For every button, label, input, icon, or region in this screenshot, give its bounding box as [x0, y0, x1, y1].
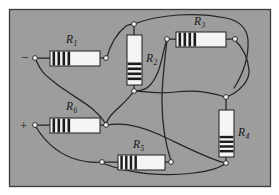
node-r6-right	[104, 123, 109, 128]
resistor-band	[58, 119, 61, 133]
resistor-band	[68, 52, 71, 66]
resistor-band	[53, 119, 56, 133]
resistor-band	[179, 33, 182, 47]
node-positive-terminal	[33, 123, 38, 128]
resistor-r1	[50, 51, 100, 66]
resistor-band	[53, 52, 56, 66]
resistor-band	[63, 52, 66, 66]
resistor-band	[220, 145, 234, 147]
node-r5-left	[100, 160, 105, 165]
resistor-label-subscript: 2	[154, 58, 158, 67]
resistor-band	[189, 33, 192, 47]
resistor-label-subscript: 6	[74, 106, 78, 115]
circuit-figure: R1R2R3R4R5R6 −+	[0, 0, 279, 195]
resistor-band	[130, 156, 132, 170]
circuit-schematic-svg: R1R2R3R4R5R6 −+	[0, 0, 279, 195]
resistor-band	[128, 78, 142, 81]
node-r4-top	[224, 95, 229, 100]
resistor-r5	[118, 155, 165, 170]
node-r2-bottom	[132, 89, 137, 94]
resistor-label-subscript: 1	[74, 39, 78, 48]
resistor-label-subscript: 3	[201, 21, 206, 30]
resistor-band	[184, 33, 187, 47]
node-r1-right	[104, 56, 109, 61]
resistor-label-subscript: 5	[141, 144, 145, 153]
resistor-band	[68, 119, 71, 133]
node-r3-right	[233, 37, 238, 42]
resistor-r2	[127, 35, 142, 85]
node-r4-bottom	[224, 161, 229, 166]
positive-terminal-sign: +	[20, 118, 27, 133]
resistor-band	[128, 68, 142, 71]
resistor-band	[63, 119, 66, 133]
resistor-band	[128, 73, 142, 76]
resistor-band	[125, 156, 127, 170]
negative-terminal-sign: −	[21, 50, 28, 65]
resistor-r6	[50, 118, 100, 133]
resistor-r4	[219, 110, 234, 157]
resistor-band	[220, 141, 234, 143]
node-r3-left	[165, 37, 170, 42]
node-negative-terminal	[33, 56, 38, 61]
resistor-band	[128, 63, 142, 66]
resistor-band	[220, 150, 234, 152]
resistor-r3	[176, 32, 226, 47]
resistor-band	[194, 33, 197, 47]
resistor-band	[58, 52, 61, 66]
resistor-label-subscript: 4	[246, 132, 250, 141]
node-r5-right	[169, 160, 174, 165]
node-top-center	[132, 22, 137, 27]
resistor-band	[220, 136, 234, 138]
resistor-band	[120, 156, 122, 170]
resistor-band	[134, 156, 136, 170]
